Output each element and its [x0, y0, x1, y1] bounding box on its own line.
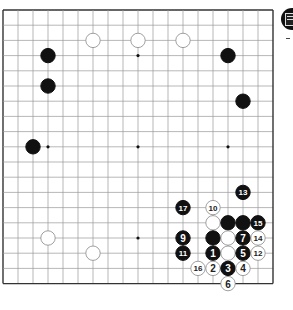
white-stone: 2 [206, 261, 220, 275]
move-number: 7 [240, 233, 246, 244]
move-number: 2 [210, 263, 216, 274]
black-stone [221, 216, 235, 230]
star-point [226, 145, 229, 148]
star-point [136, 236, 139, 239]
black-stone: 3 [221, 261, 235, 275]
white-stone: 6 [221, 276, 235, 290]
white-stone: 12 [251, 246, 265, 260]
black-stone: 9 [176, 231, 190, 245]
move-number: 10 [209, 204, 218, 213]
white-stone [221, 231, 235, 245]
move-number: 12 [254, 249, 263, 258]
white-stone [86, 246, 100, 260]
white-stone: 16 [191, 261, 205, 275]
side-dash-mark [286, 38, 290, 39]
black-stone [206, 231, 220, 245]
move-number: 15 [254, 219, 263, 228]
white-stone [176, 33, 190, 47]
move-number: 9 [180, 233, 186, 244]
white-stone [86, 33, 100, 47]
white-stone [221, 246, 235, 260]
white-stone: 10 [206, 200, 220, 214]
move-number: 3 [225, 263, 231, 274]
black-stone [221, 48, 235, 62]
star-point [46, 145, 49, 148]
black-stone: 1 [206, 246, 220, 260]
move-number: 11 [179, 249, 188, 258]
black-stone [41, 79, 55, 93]
white-stone [131, 33, 145, 47]
black-stone [26, 140, 40, 154]
black-stone: 13 [236, 185, 250, 199]
move-number: 17 [179, 204, 188, 213]
black-stone: 11 [176, 246, 190, 260]
black-stone [236, 216, 250, 230]
go-board: 131710159714111512162346 [0, 0, 293, 310]
go-board-diagram: 131710159714111512162346 [0, 0, 293, 310]
move-number: 13 [239, 188, 248, 197]
white-stone: 14 [251, 231, 265, 245]
white-stone [206, 216, 220, 230]
star-point [136, 145, 139, 148]
black-stone: 15 [251, 216, 265, 230]
black-stone [236, 94, 250, 108]
move-number: 6 [225, 279, 231, 290]
move-number: 16 [194, 264, 203, 273]
black-stone: 17 [176, 200, 190, 214]
white-stone: 4 [236, 261, 250, 275]
black-stone: 5 [236, 246, 250, 260]
move-number: 1 [210, 248, 216, 259]
move-number: 4 [240, 263, 246, 274]
star-point [136, 54, 139, 57]
white-stone [41, 231, 55, 245]
black-stone: 7 [236, 231, 250, 245]
move-number: 14 [254, 234, 263, 243]
black-stone [41, 48, 55, 62]
move-number: 5 [240, 248, 246, 259]
